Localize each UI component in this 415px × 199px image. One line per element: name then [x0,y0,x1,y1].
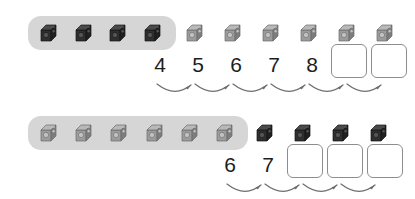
grouped-cube [40,23,60,43]
sequence-numeral: 4 [149,52,171,78]
grouped-cube [109,23,129,43]
loose-cube [186,23,206,43]
grouped-cube [75,123,95,143]
grouped-cube [40,123,60,143]
loose-cube [300,23,320,43]
answer-box-3[interactable] [367,144,403,178]
loose-cube [376,23,396,43]
counting-on-worksheet: 45678 67 [0,0,415,199]
worksheet-row-top: 45678 [0,0,415,99]
grouped-cube [146,123,166,143]
loose-cube [332,123,352,143]
sequence-numeral: 8 [301,52,323,78]
loose-cube [262,23,282,43]
sequence-numeral: 6 [219,152,241,178]
sequence-numeral: 7 [257,152,279,178]
grouped-cube [110,123,130,143]
loose-cube [224,23,244,43]
grouped-cube [75,23,95,43]
answer-box-1[interactable] [287,144,323,178]
worksheet-row-bottom: 67 [0,100,415,199]
sequence-numeral: 5 [187,52,209,78]
grouped-cube [144,23,164,43]
answer-box-2[interactable] [327,144,363,178]
grouped-cube [181,123,201,143]
count-on-arrows [0,180,415,199]
loose-cube [370,123,390,143]
sequence-numeral: 6 [225,52,247,78]
answer-box-2[interactable] [371,44,407,78]
loose-cube [338,23,358,43]
loose-cube [294,123,314,143]
loose-cube [256,123,276,143]
answer-box-1[interactable] [331,44,367,78]
cube-group-bar [28,116,248,150]
sequence-numeral: 7 [263,52,285,78]
grouped-cube [216,123,236,143]
